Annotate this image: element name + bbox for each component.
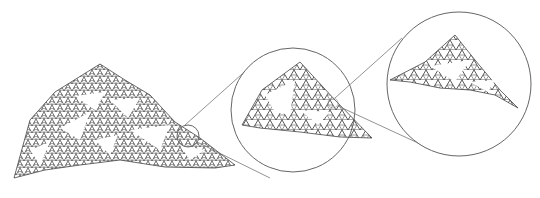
fractal-landscape xyxy=(14,64,235,178)
zoom-circle-1 xyxy=(231,48,372,172)
fractal-zoom-diagram xyxy=(0,0,540,198)
zoom-circle-2 xyxy=(387,12,531,156)
